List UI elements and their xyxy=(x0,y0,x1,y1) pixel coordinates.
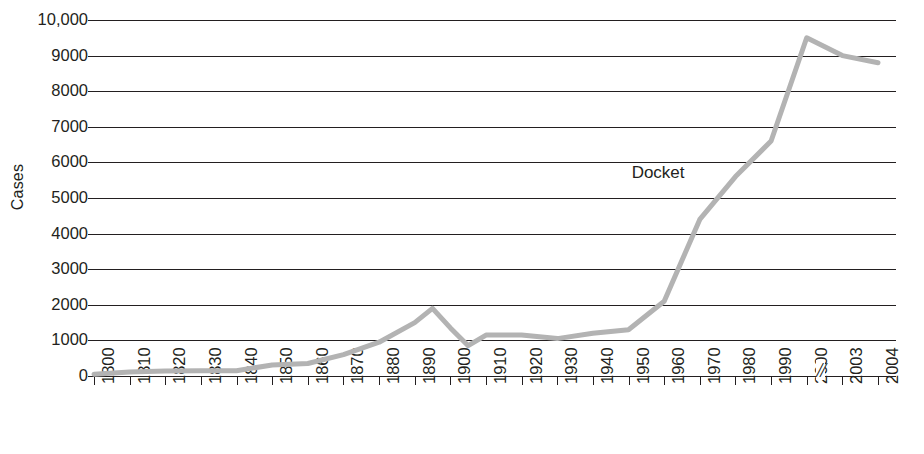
y-tick-label-6000: 6000 xyxy=(2,153,88,170)
y-tick-label-3000: 3000 xyxy=(2,260,88,277)
series-line-docket xyxy=(88,0,896,454)
y-tick-label-9000: 9000 xyxy=(2,47,88,64)
plot-area: 1800181018201830184018501860187018801890… xyxy=(88,0,896,454)
y-tick-label-10000: 10,000 xyxy=(2,11,88,28)
y-tick-label-0: 0 xyxy=(2,367,88,384)
series-annotation-docket: Docket xyxy=(632,163,685,183)
y-axis-tick-labels: 010002000300040005000600070008000900010,… xyxy=(0,0,88,454)
y-tick-label-4000: 4000 xyxy=(2,225,88,242)
y-tick-label-5000: 5000 xyxy=(2,189,88,206)
y-tick-label-2000: 2000 xyxy=(2,296,88,313)
x-axis-break-icon: // xyxy=(816,360,826,380)
y-tick-label-1000: 1000 xyxy=(2,331,88,348)
y-tick-label-7000: 7000 xyxy=(2,118,88,135)
y-tick-label-8000: 8000 xyxy=(2,82,88,99)
chart-figure: Cases 0100020003000400050006000700080009… xyxy=(0,0,924,454)
